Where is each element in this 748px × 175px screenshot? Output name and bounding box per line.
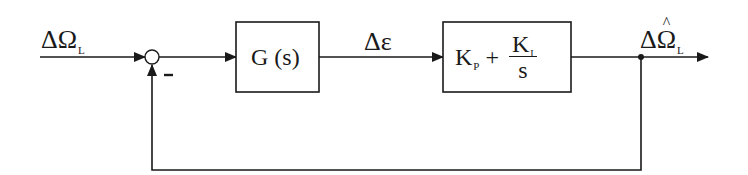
summing-junction bbox=[145, 50, 159, 64]
intermediate-signal-label: Δε bbox=[364, 29, 392, 55]
input-signal-label: ΔΩL bbox=[41, 27, 85, 53]
integral-term-fraction: KI s bbox=[509, 32, 537, 83]
pi-controller-expression: KP + KI s bbox=[455, 32, 537, 83]
plant-block-label: G (s) bbox=[251, 44, 300, 71]
output-signal-label: ΔΩL bbox=[640, 27, 684, 53]
